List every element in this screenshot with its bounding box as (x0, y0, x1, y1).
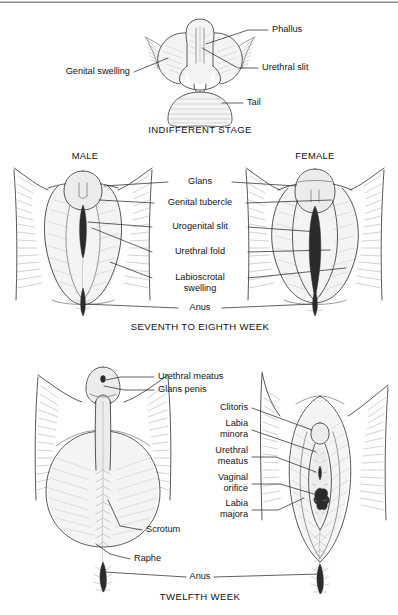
label-phallus: Phallus (272, 24, 303, 34)
label-anus-week8: Anus (190, 302, 211, 312)
label-labioscrotal-line1: Labioscrotal (175, 272, 225, 282)
label-glans: Glans (188, 176, 212, 186)
label-glans-penis: Glans penis (158, 384, 207, 394)
label-vaginal-orifice-line2: orifice (223, 483, 248, 493)
label-genital-swelling: Genital swelling (66, 66, 130, 76)
caption-indifferent-stage: INDIFFERENT STAGE (148, 124, 252, 135)
anatomical-figure-page: Phallus Urethral slit Genital swelling T… (0, 0, 398, 615)
label-urethral-fold: Urethral fold (175, 246, 225, 256)
caption-seventh-to-eighth-week: SEVENTH TO EIGHTH WEEK (131, 321, 270, 332)
label-vaginal-orifice-line1: Vaginal (218, 472, 248, 482)
label-urethral-meatus-female-line1: Urethral (215, 445, 248, 455)
label-labia-majora-line2: majora (220, 509, 249, 519)
heading-female: FEMALE (295, 150, 334, 161)
label-clitoris: Clitoris (220, 402, 248, 412)
label-tail: Tail (247, 97, 261, 107)
label-labioscrotal-line2: swelling (184, 283, 217, 293)
caption-twelfth-week: TWELFTH WEEK (160, 591, 241, 602)
male-urethral-meatus (101, 376, 106, 383)
label-scrotum: Scrotum (146, 524, 181, 534)
heading-male: MALE (72, 150, 99, 161)
label-genital-tubercle: Genital tubercle (168, 197, 232, 207)
label-labia-minora-line2: minora (220, 429, 249, 439)
label-urethral-meatus-female-line2: meatus (218, 456, 249, 466)
female-urethral-meatus (319, 466, 322, 480)
label-labia-majora-line1: Labia (226, 498, 249, 508)
label-anus-week12: Anus (190, 571, 211, 581)
label-urogenital-slit: Urogenital slit (172, 221, 228, 231)
label-urethral-slit: Urethral slit (262, 62, 309, 72)
label-raphe: Raphe (134, 553, 161, 563)
label-labia-minora-line1: Labia (226, 418, 249, 428)
label-urethral-meatus-male: Urethral meatus (158, 371, 224, 381)
